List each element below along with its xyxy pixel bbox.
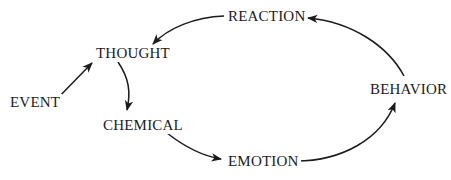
node-emotion: EMOTION <box>226 153 301 170</box>
edge-emotion-to-behavior <box>296 103 395 161</box>
edge-reaction-to-thought <box>153 16 224 44</box>
cycle-diagram: EVENT THOUGHT CHEMICAL REACTION EMOTION … <box>0 0 451 180</box>
edge-thought-to-chemical <box>118 62 129 110</box>
node-reaction: REACTION <box>226 8 307 25</box>
node-behavior: BEHAVIOR <box>368 81 449 98</box>
edge-chemical-to-emotion <box>167 133 221 159</box>
node-event: EVENT <box>8 94 62 111</box>
node-thought: THOUGHT <box>94 45 172 62</box>
edge-behavior-to-reaction <box>308 18 404 76</box>
node-chemical: CHEMICAL <box>101 117 185 134</box>
